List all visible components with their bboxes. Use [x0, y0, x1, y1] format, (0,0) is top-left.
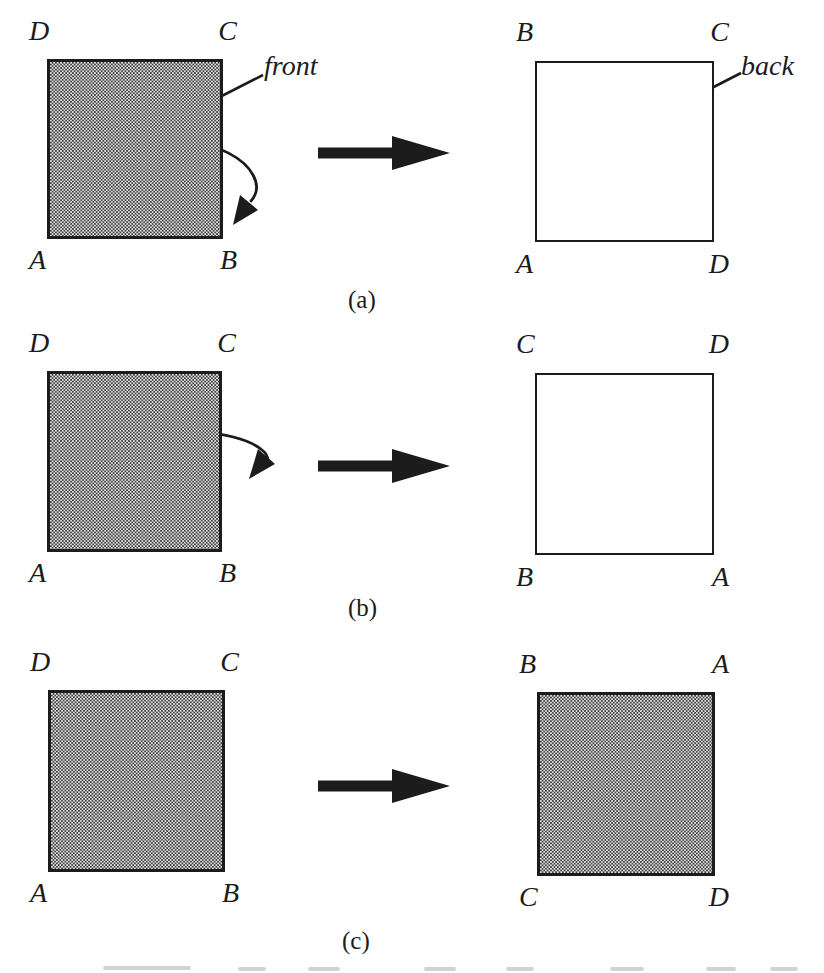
- corner-label: D: [709, 883, 729, 911]
- corner-label: B: [516, 563, 533, 591]
- transform-arrow-icon: [318, 769, 450, 803]
- square-b-left-front: D C A B: [47, 371, 222, 552]
- corner-label: A: [29, 559, 46, 587]
- corner-label: C: [217, 329, 236, 357]
- transform-arrow-icon: [318, 449, 450, 483]
- corner-label: B: [220, 246, 237, 274]
- corner-label: A: [712, 563, 729, 591]
- panel-label-c: (c): [342, 928, 370, 953]
- corner-label: C: [516, 330, 535, 358]
- corner-label: C: [710, 18, 729, 46]
- corner-label: B: [519, 650, 536, 678]
- corner-label: D: [709, 250, 729, 278]
- back-annotation: back: [741, 52, 794, 80]
- front-annotation: front: [264, 52, 317, 80]
- panel-label-b: (b): [348, 595, 377, 620]
- square-c-right-front: B A C D: [537, 692, 715, 876]
- corner-label: B: [516, 18, 533, 46]
- corner-label: A: [516, 250, 533, 278]
- figure-page: D C A B front B C A D back (a) D C A B C…: [0, 0, 824, 973]
- corner-label: A: [712, 650, 729, 678]
- square-a-left-front: D C A B: [47, 59, 223, 239]
- corner-label: A: [29, 246, 46, 274]
- panel-label-a: (a): [348, 287, 376, 312]
- corner-label: D: [29, 17, 49, 45]
- corner-label: C: [220, 648, 239, 676]
- transform-arrow-icon: [318, 136, 450, 170]
- square-b-right-back: C D B A: [535, 373, 714, 555]
- square-c-left-front: D C A B: [48, 690, 225, 872]
- corner-label: D: [709, 330, 729, 358]
- corner-label: C: [218, 17, 237, 45]
- corner-label: B: [222, 879, 239, 907]
- corner-label: A: [30, 879, 47, 907]
- corner-label: C: [519, 883, 538, 911]
- square-a-right-back: B C A D: [535, 61, 714, 242]
- corner-label: D: [30, 648, 50, 676]
- corner-label: D: [29, 329, 49, 357]
- corner-label: B: [219, 559, 236, 587]
